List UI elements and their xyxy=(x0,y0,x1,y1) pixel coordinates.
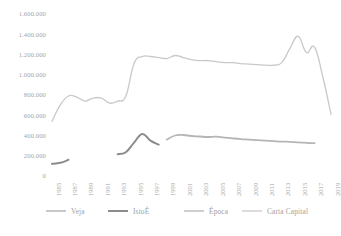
x-axis-tick-label: 1993 xyxy=(120,183,127,196)
x-axis-tick-label: 2001 xyxy=(186,183,193,196)
legend-item-carta-capital[interactable]: Carta Capital xyxy=(242,207,308,216)
legend-swatch-icon xyxy=(242,210,262,211)
legend-label: Veja xyxy=(71,207,85,216)
x-axis-tick-label: 2005 xyxy=(219,183,226,196)
x-axis-tick-label: 2019 xyxy=(334,183,341,196)
x-axis-tick-label: 1999 xyxy=(169,183,176,196)
x-axis-tick-label: 1989 xyxy=(87,183,94,196)
legend-item-veja[interactable]: Veja xyxy=(46,207,85,216)
x-axis-tick-label: 1997 xyxy=(153,183,160,196)
legend-swatch-icon xyxy=(184,210,204,211)
legend-label: Carta Capital xyxy=(267,207,308,216)
x-axis-tick-label: 2013 xyxy=(284,183,291,196)
x-axis-tick-label: 1987 xyxy=(71,183,78,196)
legend-label: Época xyxy=(209,207,228,216)
x-axis-tick-label: 1991 xyxy=(104,183,111,196)
x-axis-tick-label: 2003 xyxy=(202,183,209,196)
x-axis-tick-label: 2007 xyxy=(235,183,242,196)
x-axis-tick-label: 1985 xyxy=(55,183,62,196)
x-axis-tick-label: 2011 xyxy=(268,183,275,196)
chart-legend: VejaIstoÉÉpocaCarta Capital xyxy=(46,203,331,219)
legend-label: IstoÉ xyxy=(133,207,149,216)
x-axis-tick-label: 2017 xyxy=(317,183,324,196)
legend-item-época[interactable]: Época xyxy=(184,207,228,216)
x-axis-tick-label: 2015 xyxy=(301,183,308,196)
legend-swatch-icon xyxy=(46,210,66,211)
x-axis-tick-label: 2009 xyxy=(252,183,259,196)
legend-swatch-icon xyxy=(108,210,128,213)
legend-item-istoé[interactable]: IstoÉ xyxy=(108,207,149,216)
x-axis-tick-label: 1995 xyxy=(137,183,144,196)
